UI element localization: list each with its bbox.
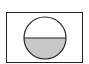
- diagram-canvas: [0, 0, 89, 64]
- circle-lower-half-fill: [24, 38, 66, 59]
